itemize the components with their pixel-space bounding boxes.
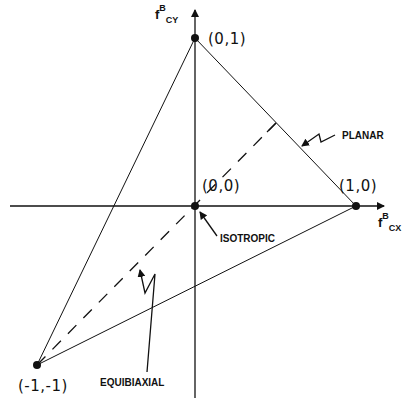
edge-01-m1m1 bbox=[37, 38, 195, 365]
label-point-0-0: (0,0) bbox=[202, 177, 240, 195]
equibiaxial-label: EQUIBIAXIAL bbox=[100, 377, 164, 388]
edge-10-m1m1 bbox=[37, 206, 356, 365]
y-axis-label: fBCY bbox=[155, 6, 178, 25]
point-m1-m1 bbox=[33, 361, 41, 369]
planar-tick bbox=[267, 123, 276, 132]
isotropic-leader-arrow bbox=[200, 212, 217, 236]
label-point-m1-m1: (-1,-1) bbox=[18, 377, 68, 395]
point-0-1 bbox=[191, 34, 199, 42]
isotropic-label: ISOTROPIC bbox=[220, 233, 275, 244]
diagram-canvas bbox=[0, 0, 408, 409]
planar-label: PLANAR bbox=[342, 130, 384, 141]
equibiaxial-dashed-line bbox=[37, 123, 276, 365]
label-point-0-1: (0,1) bbox=[208, 30, 246, 48]
label-point-1-0: (1,0) bbox=[339, 177, 377, 195]
point-1-0 bbox=[352, 202, 360, 210]
planar-leader-arrow bbox=[302, 134, 335, 146]
point-0-0 bbox=[191, 202, 199, 210]
x-axis-label: fBCX bbox=[378, 214, 401, 233]
equibiaxial-leader-arrow bbox=[140, 270, 155, 372]
